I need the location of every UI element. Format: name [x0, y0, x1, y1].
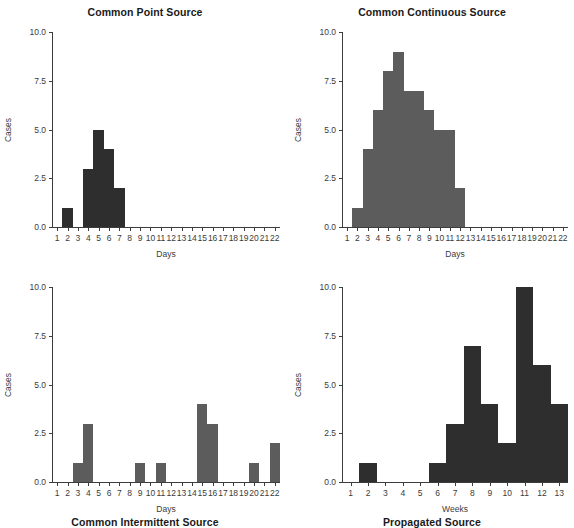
- y-tick-mark: [49, 287, 52, 288]
- x-tick-mark: [264, 228, 265, 231]
- x-tick-mark: [275, 483, 276, 486]
- x-tick-mark: [88, 228, 89, 231]
- x-tick-label: 8: [127, 233, 132, 243]
- y-tick-mark: [339, 287, 342, 288]
- x-tick-label: 18: [517, 233, 526, 243]
- x-tick-mark: [140, 228, 141, 231]
- bar: [104, 149, 114, 227]
- x-tick-label: 3: [76, 233, 81, 243]
- x-tick-mark: [99, 228, 100, 231]
- x-tick-label: 2: [366, 488, 371, 498]
- y-tick-mark: [339, 178, 342, 179]
- x-tick-label: 5: [418, 488, 423, 498]
- x-tick-mark: [78, 228, 79, 231]
- x-tick-label: 3: [365, 233, 370, 243]
- x-tick-label: 1: [345, 233, 350, 243]
- x-tick-label: 17: [218, 488, 227, 498]
- bar: [249, 463, 259, 483]
- bar: [424, 110, 434, 227]
- bar: [135, 463, 145, 483]
- x-tick-mark: [150, 483, 151, 486]
- x-tick-mark: [171, 483, 172, 486]
- y-tick-label: 0.0: [10, 477, 46, 487]
- bar: [464, 346, 481, 483]
- bar: [197, 404, 207, 482]
- chart-panel-propagated-source: Propagated Source0.02.55.07.510.0Cases12…: [290, 255, 574, 506]
- x-tick-label: 21: [260, 233, 269, 243]
- x-tick-mark: [368, 228, 369, 231]
- y-axis-label: Cases: [293, 110, 303, 150]
- x-tick-mark: [192, 228, 193, 231]
- y-tick-mark: [339, 81, 342, 82]
- y-tick-mark: [339, 32, 342, 33]
- y-tick-label: 10.0: [300, 282, 336, 292]
- y-tick-label: 5.0: [10, 125, 46, 135]
- y-axis-label: Cases: [3, 110, 13, 150]
- y-tick-mark: [339, 130, 342, 131]
- x-tick-mark: [68, 228, 69, 231]
- y-tick-label: 0.0: [300, 477, 336, 487]
- x-tick-mark: [409, 228, 410, 231]
- y-axis-line: [52, 287, 53, 482]
- y-tick-mark: [49, 482, 52, 483]
- x-tick-label: 22: [270, 233, 279, 243]
- chart-title-common-point-source: Common Point Source: [0, 6, 290, 18]
- bar: [516, 287, 533, 482]
- y-tick-mark: [49, 433, 52, 434]
- x-tick-mark: [563, 228, 564, 231]
- x-tick-label: 20: [538, 233, 547, 243]
- y-tick-mark: [49, 336, 52, 337]
- x-tick-mark: [419, 228, 420, 231]
- y-tick-mark: [49, 130, 52, 131]
- x-tick-mark: [507, 483, 508, 486]
- bar: [393, 52, 403, 228]
- bar: [83, 169, 93, 228]
- x-tick-mark: [399, 228, 400, 231]
- y-axis-line: [52, 32, 53, 227]
- x-tick-label: 14: [187, 488, 196, 498]
- x-tick-label: 7: [406, 233, 411, 243]
- x-tick-label: 4: [86, 488, 91, 498]
- y-tick-label: 7.5: [10, 331, 46, 341]
- x-tick-mark: [481, 228, 482, 231]
- x-tick-label: 15: [198, 233, 207, 243]
- x-tick-mark: [119, 483, 120, 486]
- x-tick-label: 12: [537, 488, 546, 498]
- x-tick-mark: [254, 483, 255, 486]
- x-tick-label: 21: [548, 233, 557, 243]
- x-tick-mark: [490, 483, 491, 486]
- x-tick-label: 19: [527, 233, 536, 243]
- x-tick-label: 10: [502, 488, 511, 498]
- x-tick-label: 4: [400, 488, 405, 498]
- x-tick-label: 11: [445, 233, 454, 243]
- y-tick-label: 10.0: [300, 27, 336, 37]
- x-tick-label: 8: [417, 233, 422, 243]
- bar: [414, 91, 424, 228]
- x-tick-label: 4: [376, 233, 381, 243]
- x-axis-line: [52, 482, 280, 483]
- x-tick-label: 13: [177, 488, 186, 498]
- x-tick-mark: [264, 483, 265, 486]
- x-tick-mark: [522, 228, 523, 231]
- y-tick-mark: [49, 81, 52, 82]
- x-tick-label: 6: [396, 233, 401, 243]
- bar: [114, 188, 124, 227]
- bar: [455, 188, 465, 227]
- x-tick-label: 8: [127, 488, 132, 498]
- x-tick-label: 3: [383, 488, 388, 498]
- y-axis-label: Cases: [3, 365, 13, 405]
- y-tick-mark: [339, 227, 342, 228]
- x-tick-label: 2: [65, 233, 70, 243]
- x-axis-label: Weeks: [442, 504, 468, 514]
- y-tick-mark: [339, 482, 342, 483]
- x-tick-mark: [368, 483, 369, 486]
- x-tick-label: 7: [117, 233, 122, 243]
- y-tick-label: 7.5: [300, 331, 336, 341]
- x-tick-label: 1: [55, 233, 60, 243]
- chart-panel-common-continuous-source: Common Continuous Source0.02.55.07.510.0…: [290, 0, 574, 255]
- y-tick-label: 5.0: [10, 380, 46, 390]
- y-tick-label: 10.0: [10, 27, 46, 37]
- bar: [429, 463, 446, 483]
- y-tick-label: 2.5: [10, 428, 46, 438]
- x-tick-mark: [542, 483, 543, 486]
